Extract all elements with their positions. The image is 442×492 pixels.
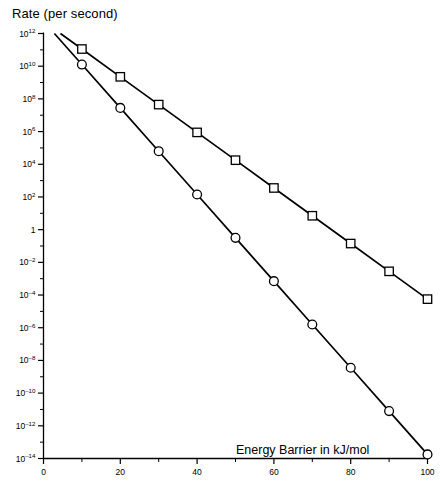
data-point-square-100 <box>423 295 431 303</box>
data-point-circle-20 <box>116 103 125 112</box>
x-tick-label: 60 <box>269 467 279 477</box>
data-point-circle-100 <box>423 450 432 459</box>
y-tick-label: 10–14 <box>16 452 36 463</box>
data-point-square-40 <box>193 128 201 136</box>
x-tick-label: 100 <box>420 467 434 477</box>
y-tick-label: 106 <box>23 125 36 136</box>
data-point-circle-60 <box>270 277 279 286</box>
plot-area: 10–1410–1210–1010–810–610–410–2110210410… <box>0 0 442 492</box>
data-point-square-10 <box>78 45 86 53</box>
data-point-square-60 <box>270 184 278 192</box>
data-point-square-80 <box>347 239 355 247</box>
data-point-square-50 <box>231 156 239 164</box>
y-tick-label: 10–6 <box>19 322 36 333</box>
y-tick-label: 1012 <box>19 27 36 38</box>
data-point-square-30 <box>155 100 163 108</box>
data-point-circle-40 <box>193 190 202 199</box>
x-tick-label: 0 <box>41 467 46 477</box>
data-point-square-20 <box>116 73 124 81</box>
data-point-circle-10 <box>78 60 87 69</box>
series-line-lower-series <box>54 34 427 455</box>
x-tick-label: 20 <box>116 467 126 477</box>
data-series-group <box>54 34 432 459</box>
x-tick-label: 80 <box>346 467 356 477</box>
y-tick-label: 102 <box>23 191 36 202</box>
data-point-circle-50 <box>231 233 240 242</box>
data-point-square-90 <box>385 267 393 275</box>
data-point-circle-30 <box>154 147 163 156</box>
data-point-square-70 <box>308 212 316 220</box>
y-tick-label: 1010 <box>19 60 36 71</box>
x-axis: 020406080100 <box>41 459 435 477</box>
data-point-circle-90 <box>385 407 394 416</box>
data-point-circle-80 <box>346 363 355 372</box>
y-tick-label: 1 <box>31 225 36 235</box>
y-tick-label: 10–4 <box>19 289 36 300</box>
y-axis: 10–1410–1210–1010–810–610–410–2110210410… <box>16 27 44 463</box>
y-tick-label: 10–8 <box>19 354 36 365</box>
y-tick-label: 10–10 <box>16 387 36 398</box>
data-point-circle-70 <box>308 320 317 329</box>
chart-container: Rate (per second) Energy Barrier in kJ/m… <box>0 0 442 492</box>
y-tick-label: 108 <box>23 93 36 104</box>
y-tick-label: 10–12 <box>16 420 36 431</box>
y-tick-label: 104 <box>23 158 36 169</box>
x-tick-label: 40 <box>192 467 202 477</box>
y-tick-label: 10–2 <box>19 256 36 267</box>
